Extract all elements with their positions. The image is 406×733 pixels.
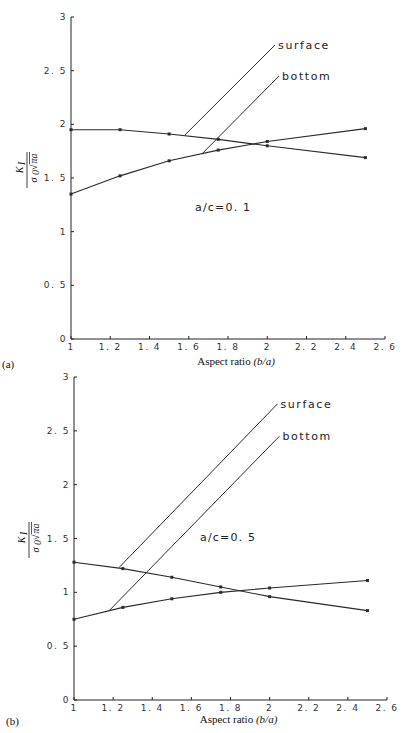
svg-text:πa: πa <box>30 523 41 533</box>
x-tick-label: 1. 8 <box>216 342 239 352</box>
x-tick-label: 2 <box>266 703 273 713</box>
y-tick-label: 0 <box>60 334 67 344</box>
y-tick-label: 1. 5 <box>47 534 70 544</box>
y-tick-label: 2 <box>60 119 67 129</box>
x-tick-label: 1. 6 <box>177 342 200 352</box>
x-tick-label: 1 <box>70 703 77 713</box>
x-tick-label: 1. 4 <box>141 703 164 713</box>
y-tick-label: 0 <box>63 695 70 705</box>
y-tick-label: 3 <box>63 372 70 382</box>
panel-label: (a) <box>2 358 15 371</box>
x-tick-label: 2. 4 <box>334 342 357 352</box>
svg-text:K: K <box>16 535 27 544</box>
y-tick-label: 2. 5 <box>47 426 70 436</box>
data-point-surface <box>119 128 122 131</box>
chart-b: 11. 21. 41. 61. 822. 22. 42. 600. 511. 5… <box>6 372 399 728</box>
y-axis-label: KIσ0√πa <box>16 522 43 558</box>
data-point-surface <box>170 576 173 579</box>
svg-text:σ: σ <box>30 546 41 552</box>
y-tick-label: 1 <box>60 227 67 237</box>
legend-leader-bottom <box>109 436 279 610</box>
data-point-surface <box>266 144 269 147</box>
data-point-bottom <box>70 193 73 196</box>
data-point-bottom <box>170 597 173 600</box>
data-point-bottom <box>266 140 269 143</box>
data-point-surface <box>366 609 369 612</box>
data-point-bottom <box>168 159 171 162</box>
data-point-bottom <box>73 618 76 621</box>
x-tick-label: 1. 2 <box>99 342 122 352</box>
x-tick-label: 1. 2 <box>102 703 125 713</box>
y-tick-label: 1. 5 <box>44 173 67 183</box>
x-tick-label: 1 <box>67 342 74 352</box>
legend-label-surface: surface <box>280 398 332 411</box>
data-point-surface <box>268 595 271 598</box>
data-point-bottom <box>364 127 367 130</box>
legend-leader-surface <box>185 45 275 135</box>
data-point-surface <box>73 561 76 564</box>
svg-text:πa: πa <box>28 153 39 163</box>
legend-label-surface: surface <box>278 39 330 52</box>
svg-text:√: √ <box>28 164 39 170</box>
ratio-annotation: a/c=0. 1 <box>195 201 251 214</box>
data-point-bottom <box>219 591 222 594</box>
y-tick-label: 2. 5 <box>44 66 67 76</box>
y-tick-label: 1 <box>63 587 70 597</box>
x-tick-label: 2. 4 <box>336 703 359 713</box>
ratio-annotation: a/c=0. 5 <box>200 531 256 544</box>
data-point-surface <box>121 567 124 570</box>
x-tick-label: 2 <box>264 342 271 352</box>
svg-text:K: K <box>14 165 25 174</box>
svg-text:√: √ <box>30 534 41 540</box>
x-tick-label: 1. 4 <box>138 342 161 352</box>
y-tick-label: 0. 5 <box>44 280 67 290</box>
x-axis-label: Aspect ratio (b/a) <box>200 713 278 726</box>
y-axis-label: KIσ0√πa <box>14 152 41 188</box>
x-tick-label: 1. 8 <box>219 703 242 713</box>
x-tick-label: 2. 2 <box>297 703 320 713</box>
data-point-bottom <box>121 606 124 609</box>
x-tick-label: 2. 6 <box>375 703 398 713</box>
y-tick-label: 3 <box>60 12 67 22</box>
data-point-bottom <box>119 174 122 177</box>
data-point-surface <box>70 128 73 131</box>
x-tick-label: 2. 6 <box>373 342 396 352</box>
svg-text:I: I <box>18 531 29 536</box>
legend-label-bottom: bottom <box>282 70 331 83</box>
figure: 11. 21. 41. 61. 822. 22. 42. 600. 511. 5… <box>0 0 406 733</box>
panel-label: (b) <box>6 715 19 728</box>
data-point-bottom <box>268 587 271 590</box>
data-point-surface <box>364 156 367 159</box>
data-point-bottom <box>366 579 369 582</box>
x-tick-label: 2. 2 <box>295 342 318 352</box>
data-point-surface <box>168 132 171 135</box>
chart-a: 11. 21. 41. 61. 822. 22. 42. 600. 511. 5… <box>2 12 397 371</box>
data-point-bottom <box>217 149 220 152</box>
svg-text:σ: σ <box>28 176 39 182</box>
svg-text:I: I <box>16 161 27 166</box>
y-tick-label: 0. 5 <box>47 641 70 651</box>
legend-label-bottom: bottom <box>282 430 331 443</box>
x-tick-label: 1. 6 <box>180 703 203 713</box>
x-axis-label: Aspect ratio (b/a) <box>197 355 275 368</box>
y-tick-label: 2 <box>63 480 70 490</box>
data-point-surface <box>219 585 222 588</box>
